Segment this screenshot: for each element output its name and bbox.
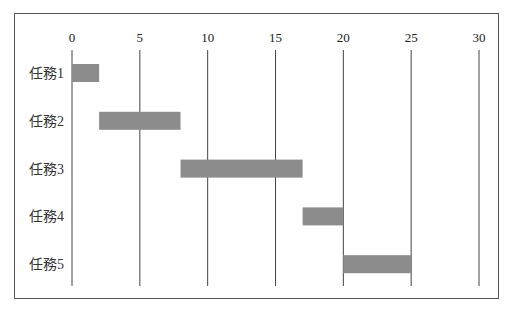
gantt-chart: 051015202530 任務1任務2任務3任務4任務5 <box>0 0 512 312</box>
category-label: 任務3 <box>29 162 64 177</box>
task-bar <box>72 64 99 82</box>
category-labels: 任務1任務2任務3任務4任務5 <box>29 66 64 272</box>
x-tick-label: 15 <box>269 30 282 45</box>
task-bar <box>99 112 180 130</box>
x-tick-label: 10 <box>201 30 214 45</box>
task-bars <box>72 64 411 273</box>
x-tick-label: 30 <box>473 30 486 45</box>
task-bar <box>303 207 344 225</box>
category-label: 任務4 <box>29 209 64 224</box>
x-tick-labels: 051015202530 <box>69 30 486 45</box>
x-tick-label: 0 <box>69 30 76 45</box>
category-label: 任務2 <box>29 114 64 129</box>
task-bar <box>181 160 303 178</box>
category-label: 任務1 <box>29 66 64 81</box>
x-tick-label: 25 <box>405 30 418 45</box>
x-tick-label: 5 <box>137 30 144 45</box>
category-label: 任務5 <box>29 257 64 272</box>
x-tick-label: 20 <box>337 30 350 45</box>
task-bar <box>343 255 411 273</box>
